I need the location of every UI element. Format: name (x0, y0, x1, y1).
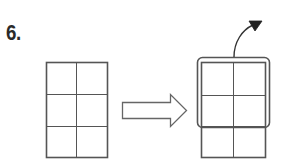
fold-diagram (0, 0, 300, 163)
curved-fold-arrow-icon (234, 25, 253, 57)
right-grid (202, 63, 266, 158)
left-grid (47, 63, 108, 158)
outline-arrow-right-icon (123, 95, 187, 127)
